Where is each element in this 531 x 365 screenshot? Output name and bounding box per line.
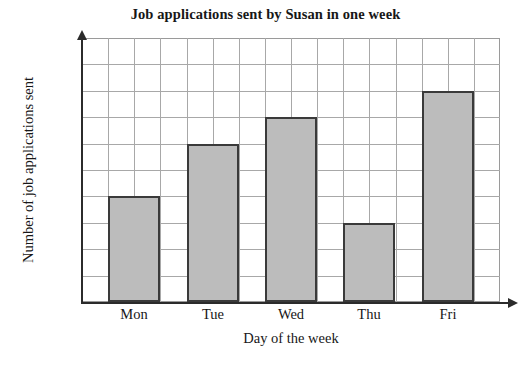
- x-axis-line: [81, 302, 512, 304]
- bar: [422, 91, 474, 302]
- x-axis-tick-label: Tue: [187, 306, 239, 323]
- y-axis-line: [81, 38, 83, 304]
- grid-line-vertical: [239, 38, 240, 302]
- grid-line-vertical: [396, 38, 397, 302]
- x-axis-tick-label: Mon: [108, 306, 160, 323]
- bar: [108, 196, 160, 302]
- grid-line-vertical: [474, 38, 475, 302]
- plot-area: [82, 38, 500, 302]
- arrow-right-icon: [508, 298, 518, 308]
- bar: [343, 223, 395, 302]
- bar: [265, 117, 317, 302]
- y-axis-title-container: Number of job applications sent: [14, 38, 42, 302]
- x-axis-tick-label: Fri: [422, 306, 474, 323]
- grid-line-vertical: [317, 38, 318, 302]
- arrow-up-icon: [77, 30, 87, 40]
- y-axis-title: Number of job applications sent: [20, 77, 37, 263]
- x-axis-tick-label: Wed: [265, 306, 317, 323]
- chart-title: Job applications sent by Susan in one we…: [0, 6, 531, 23]
- bar: [187, 144, 239, 302]
- grid-line-vertical: [160, 38, 161, 302]
- bar-chart: Job applications sent by Susan in one we…: [0, 0, 531, 365]
- x-axis-title: Day of the week: [82, 330, 500, 347]
- x-axis-tick-label: Thu: [343, 306, 395, 323]
